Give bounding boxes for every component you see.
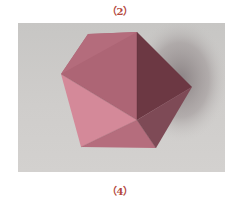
caption-top: （2） bbox=[0, 3, 240, 18]
icosahedron-photo bbox=[18, 23, 225, 172]
icosahedron-figure bbox=[18, 23, 225, 172]
caption-bottom: （4） bbox=[0, 183, 240, 198]
